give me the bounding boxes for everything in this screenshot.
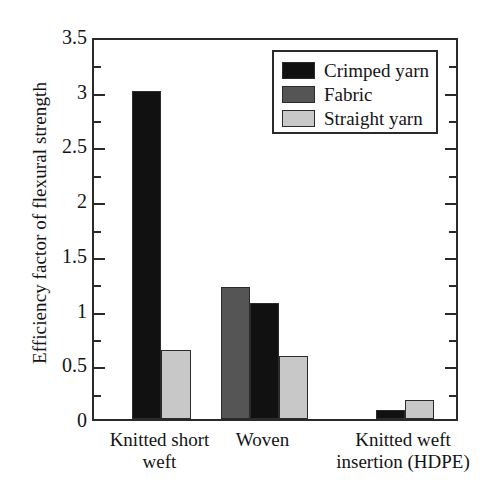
x-category-label: Knitted weftinsertion (HDPE) <box>303 429 499 473</box>
y-tick-right <box>445 148 456 150</box>
y-tick-label: 0 <box>27 410 87 430</box>
legend-item: Crimped yarn <box>282 58 436 82</box>
y-tick-right <box>445 313 456 315</box>
y-tick-left <box>94 231 101 233</box>
y-tick-label: 2.5 <box>27 136 87 156</box>
legend-swatch <box>282 62 315 79</box>
bar <box>279 356 308 419</box>
y-tick-label: 3 <box>27 82 87 102</box>
y-tick-left <box>94 148 105 150</box>
bar <box>161 350 191 419</box>
legend-label: Fabric <box>324 85 373 104</box>
legend-item: Straight yarn <box>282 106 436 130</box>
y-tick-right <box>445 94 456 96</box>
y-tick-left <box>94 66 101 68</box>
legend-swatch <box>282 110 315 127</box>
legend-label: Crimped yarn <box>324 61 429 80</box>
y-tick-label: 1.5 <box>27 246 87 266</box>
y-tick-left <box>94 367 105 369</box>
chart-legend: Crimped yarnFabricStraight yarn <box>272 50 438 134</box>
y-tick-right <box>449 121 456 123</box>
legend-item: Fabric <box>282 82 436 106</box>
y-tick-left <box>94 121 101 123</box>
y-tick-left <box>94 203 105 205</box>
y-tick-left <box>94 395 101 397</box>
bar <box>250 303 279 419</box>
y-tick-left <box>94 313 105 315</box>
bar <box>376 410 405 419</box>
y-tick-right <box>449 395 456 397</box>
y-tick-label: 3.5 <box>27 27 87 47</box>
y-tick-label: 1 <box>27 301 87 321</box>
x-category-label-line: Knitted weft <box>303 429 499 451</box>
y-tick-left <box>94 94 105 96</box>
bar <box>221 287 250 419</box>
y-tick-right <box>445 258 456 260</box>
y-tick-right <box>449 231 456 233</box>
y-tick-label: 0.5 <box>27 355 87 375</box>
y-tick-right <box>449 340 456 342</box>
bar <box>405 400 434 419</box>
y-tick-label: 2 <box>27 191 87 211</box>
y-tick-right <box>445 367 456 369</box>
y-tick-right <box>449 66 456 68</box>
y-tick-right <box>445 203 456 205</box>
x-category-label-line: weft <box>60 451 260 473</box>
y-tick-left <box>94 176 101 178</box>
legend-label: Straight yarn <box>324 109 423 128</box>
legend-swatch <box>282 86 315 103</box>
y-tick-left <box>94 340 101 342</box>
y-tick-left <box>94 258 105 260</box>
bar-chart-figure: Efficiency factor of flexural strength 0… <box>0 0 499 502</box>
y-tick-left <box>94 285 101 287</box>
bar <box>132 91 161 419</box>
y-tick-right <box>449 285 456 287</box>
x-category-label-line: insertion (HDPE) <box>303 451 499 473</box>
y-tick-right <box>449 176 456 178</box>
